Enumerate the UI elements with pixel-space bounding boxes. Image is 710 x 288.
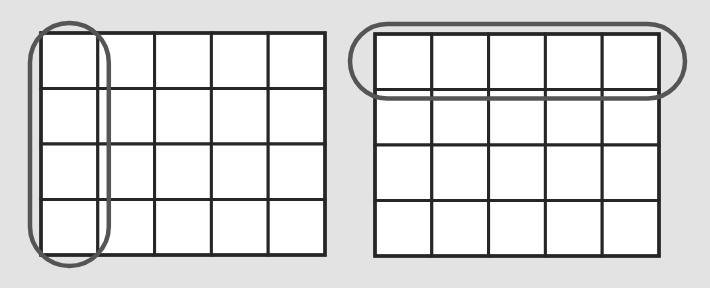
- diagram-canvas: [0, 0, 710, 288]
- grid-cell: [268, 144, 325, 200]
- grid-cell: [211, 144, 268, 200]
- grid-cell: [602, 145, 659, 201]
- grid-cell: [489, 145, 546, 201]
- grid-cell: [268, 200, 325, 256]
- grid-cell: [602, 201, 659, 257]
- grid-cell: [155, 33, 212, 89]
- grid-cell: [268, 33, 325, 89]
- grid-cell: [545, 145, 602, 201]
- grid-cell: [98, 144, 155, 200]
- grid-cell: [432, 145, 489, 201]
- grid-cell: [432, 201, 489, 257]
- grid-cell: [489, 201, 546, 257]
- grid-cell: [268, 89, 325, 145]
- right-grid: [350, 24, 685, 256]
- grid-cell: [41, 33, 98, 89]
- left-grid: [30, 23, 325, 266]
- grid-cell: [155, 89, 212, 145]
- grid-cell: [375, 34, 432, 90]
- grid-cell: [41, 144, 98, 200]
- grid-cell: [211, 33, 268, 89]
- grid-cell: [98, 200, 155, 256]
- grid-cell: [41, 200, 98, 256]
- grid-cell: [432, 34, 489, 90]
- grid-cell: [155, 144, 212, 200]
- grid-cell: [98, 89, 155, 145]
- grid-cell: [155, 200, 212, 256]
- grid-cell: [375, 145, 432, 201]
- grid-cell: [211, 89, 268, 145]
- grid-cell: [98, 33, 155, 89]
- grid-cell: [602, 34, 659, 90]
- grid-cell: [545, 201, 602, 257]
- grid-cell: [211, 200, 268, 256]
- grid-cell: [545, 34, 602, 90]
- grid-cell: [489, 34, 546, 90]
- grid-cell: [375, 201, 432, 257]
- grid-cell: [41, 89, 98, 145]
